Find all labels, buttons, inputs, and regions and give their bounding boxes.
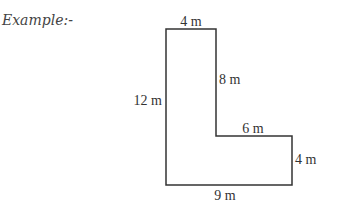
label-left: 12 m <box>134 93 163 108</box>
l-shape-diagram: 4 m 8 m 12 m 6 m 4 m 9 m <box>0 0 343 215</box>
label-top: 4 m <box>180 14 202 29</box>
l-shape-outline <box>166 29 292 185</box>
label-inner-vertical: 8 m <box>219 72 241 87</box>
label-bottom: 9 m <box>214 188 236 203</box>
label-right: 4 m <box>295 152 317 167</box>
label-inner-horizontal: 6 m <box>242 121 264 136</box>
